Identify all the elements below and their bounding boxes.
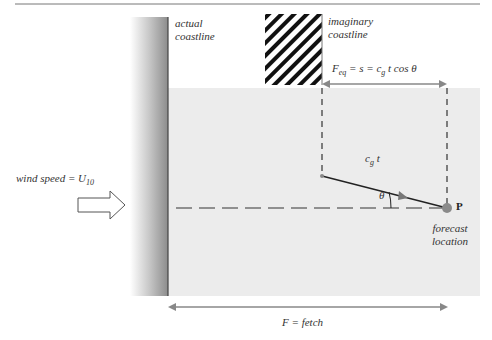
start-point (320, 174, 324, 178)
wind-speed-label: wind speed = U10 (16, 172, 94, 189)
feq-equation: Feq = s = cg t cos θ (332, 62, 417, 79)
fetch-label: F = fetch (282, 316, 323, 329)
actual-coastline-label: actual coastline (175, 17, 215, 43)
point-p-label: P (456, 200, 463, 212)
fetch-arrow (168, 303, 448, 311)
imaginary-coastline-label: imaginary coastline (328, 15, 373, 41)
wind-arrow-icon (78, 191, 125, 219)
imaginary-coastline (265, 14, 322, 85)
sea-area (168, 88, 480, 296)
forecast-location-label: forecast location (428, 222, 472, 248)
actual-coastline (130, 17, 168, 296)
forecast-point (442, 203, 452, 213)
diagram-canvas (0, 0, 492, 340)
feq-arrow (322, 80, 447, 88)
theta-label: θ (379, 189, 384, 202)
cgt-label: cg t (365, 152, 380, 169)
